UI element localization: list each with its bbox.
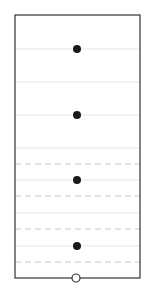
open-point-marker — [72, 274, 80, 282]
filled-point-marker — [73, 45, 81, 53]
filled-point-marker — [73, 111, 81, 119]
filled-point-marker — [73, 242, 81, 250]
dot-plot — [0, 0, 150, 300]
gridlines — [15, 49, 140, 246]
plot-frame — [15, 15, 140, 278]
filled-point-marker — [73, 176, 81, 184]
